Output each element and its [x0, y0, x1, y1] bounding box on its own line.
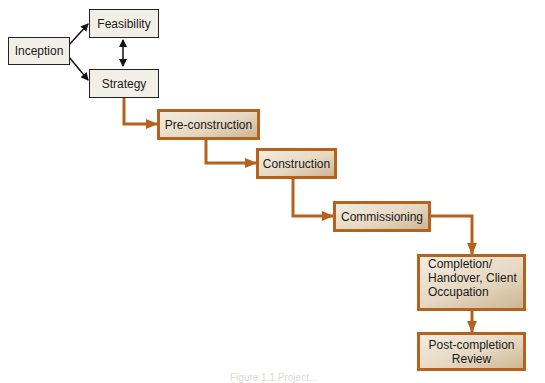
node-label-line-2: Handover, Client — [428, 271, 517, 285]
node-label-line-1: Completion/ — [428, 257, 492, 271]
node-label: Feasibility — [97, 17, 150, 31]
node-feasibility: Feasibility — [89, 9, 159, 38]
node-preconstruction: Pre-construction — [157, 109, 260, 140]
node-postcompletion: Post-completion Review — [417, 332, 526, 371]
node-label: Pre-construction — [165, 118, 252, 132]
connector-preconstruction-construction — [206, 139, 256, 163]
node-label: Strategy — [102, 77, 147, 91]
figure-caption: Figure 1.1 Project... — [230, 372, 317, 383]
node-label: Inception — [15, 44, 64, 58]
node-construction: Construction — [256, 148, 337, 179]
node-completion: Completion/ Handover, Client Occupation — [417, 254, 526, 311]
connector-commissioning-completion — [430, 216, 472, 254]
arrow-inception-strategy — [69, 57, 88, 80]
node-strategy: Strategy — [89, 69, 159, 98]
node-label-line-1: Post-completion — [428, 338, 514, 352]
arrow-inception-feasibility — [69, 24, 88, 45]
node-inception: Inception — [8, 37, 70, 65]
node-label: Construction — [263, 157, 330, 171]
node-commissioning: Commissioning — [333, 201, 431, 232]
connector-strategy-preconstruction — [124, 97, 157, 124]
node-label-line-3: Occupation — [428, 285, 489, 299]
connector-construction-commissioning — [293, 178, 333, 216]
node-label-line-2: Review — [452, 352, 491, 366]
node-label: Commissioning — [341, 210, 423, 224]
